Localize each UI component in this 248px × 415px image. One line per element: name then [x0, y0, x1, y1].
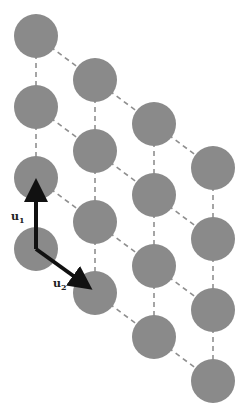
lattice-atom [73, 200, 117, 244]
lattice-atom [14, 14, 58, 58]
lattice-atom [191, 288, 235, 332]
bonds [36, 36, 213, 381]
vector-u2-label: u2 [53, 277, 67, 292]
lattice-atom [132, 315, 176, 359]
lattice-diagram: u1 u2 [0, 0, 248, 415]
lattice-atom [191, 217, 235, 261]
lattice-atom [73, 129, 117, 173]
lattice-atom [132, 173, 176, 217]
lattice-atom [73, 58, 117, 102]
lattice-atom [191, 359, 235, 403]
vector-u1-label: u1 [11, 210, 25, 225]
atoms [14, 14, 235, 403]
lattice-atom [132, 244, 176, 288]
lattice-atom [132, 102, 176, 146]
lattice-atom [191, 146, 235, 190]
lattice-atom [73, 271, 117, 315]
lattice-atom [14, 85, 58, 129]
